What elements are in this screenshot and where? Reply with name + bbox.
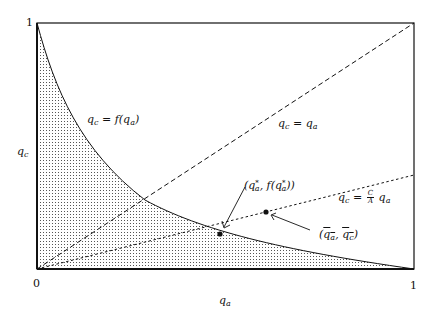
curve-f-label: qc = f(qa) (87, 114, 139, 127)
arrow-bar (271, 213, 310, 230)
arrow-optimum (222, 187, 245, 228)
line-ratio-label: qc = CA qa (338, 190, 390, 205)
ratio-fraction: CA (367, 190, 374, 205)
point-bar (263, 209, 268, 214)
y-tick-1: 1 (26, 17, 33, 28)
y-axis-label: qc (17, 146, 29, 159)
x-tick-0: 0 (33, 278, 40, 289)
line-diagonal-label: qc = qa (278, 118, 318, 131)
point-optimum (217, 231, 222, 236)
x-axis-label: qa (219, 295, 231, 308)
point-bar-label: (qa, qc) (319, 229, 358, 242)
point-optimum-label: (q*a, f(q*a)) (244, 180, 295, 193)
x-tick-1: 1 (410, 280, 417, 291)
diagram-canvas (0, 0, 434, 323)
